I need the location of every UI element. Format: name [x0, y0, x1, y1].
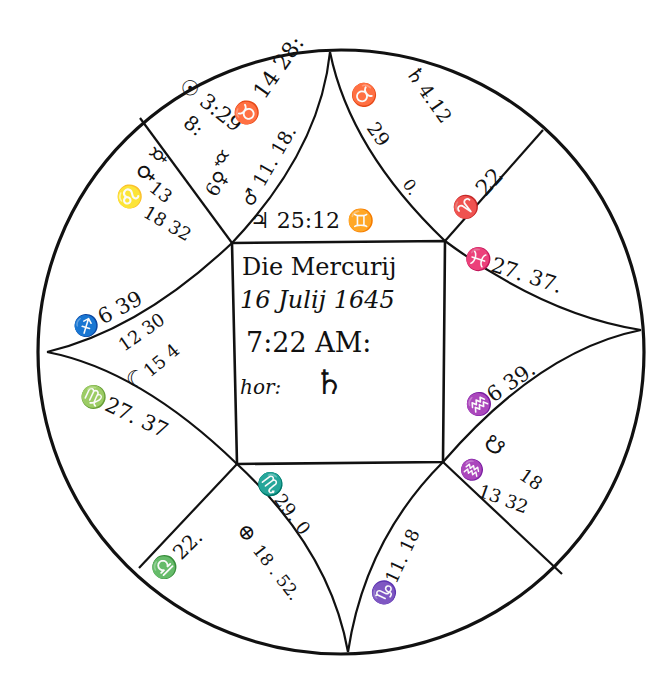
aquarius-value: 6 39.	[482, 357, 540, 407]
weekday-label: Die Mercurij	[242, 253, 397, 281]
venus-extra: 6♀	[200, 166, 232, 200]
aries-cusp: ♈ 22	[447, 163, 508, 225]
hour-label: hor:	[240, 375, 281, 399]
saturn-value: 4.12	[414, 80, 456, 127]
jupiter-position: ♃ 25:12 ♊	[250, 208, 374, 233]
part-of-fortune-symbol: ⊕	[232, 518, 262, 547]
part-of-fortune-value: 18 . 52.	[249, 541, 305, 604]
virgo-value: 27. 37	[101, 393, 172, 443]
taurus-cusp: ♉ 14 28:	[229, 31, 309, 131]
leo-number-b: 18 32	[140, 201, 195, 245]
south-node-value: 18	[516, 464, 547, 494]
hour-ruler-symbol: ♄	[314, 362, 344, 402]
date-label: 16 Julij 1645	[240, 286, 395, 314]
moon-symbol: ☾	[126, 366, 146, 391]
time-label: 7:22 AM:	[246, 327, 371, 358]
scorpio-value: 29. 0	[270, 490, 315, 539]
south-node-symbol: ☋	[479, 430, 510, 462]
taurus-right-cusp: ♉	[346, 77, 382, 113]
